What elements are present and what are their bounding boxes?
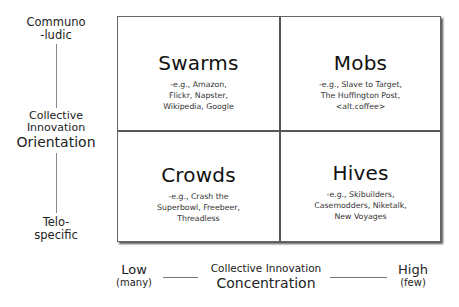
y-axis-line-lower (56, 153, 57, 213)
x-axis-title: Collective Innovation Concentration (196, 262, 336, 292)
quadrant-crowds: Crowds -e.g., Crash the Superbowl, Freeb… (118, 163, 279, 224)
x-axis-low-label: Low (many) (112, 263, 156, 290)
x-axis-line-right (330, 277, 387, 278)
y-axis-line-upper (56, 44, 57, 108)
x-axis-high-sub: (few) (388, 277, 438, 290)
x-axis-low-main: Low (112, 263, 156, 277)
x-axis-low-sub: (many) (112, 277, 156, 290)
quadrant-examples: -e.g., Crash the Superbowl, Freebeer, Th… (118, 192, 279, 224)
quadrant-mobs: Mobs -e.g., Slave to Target, The Huffing… (280, 51, 441, 112)
quadrant-matrix: Swarms -e.g., Amazon, Flickr, Napster, W… (117, 16, 441, 242)
quadrant-examples: -e.g., Skibuilders, Casemodders, Niketal… (280, 190, 441, 222)
quadrant-title: Swarms (118, 51, 279, 75)
horizontal-divider (118, 130, 440, 132)
quadrant-title: Crowds (118, 163, 279, 187)
x-axis-high-label: High (few) (388, 263, 438, 290)
x-axis-line-left (163, 277, 198, 278)
quadrant-swarms: Swarms -e.g., Amazon, Flickr, Napster, W… (118, 51, 279, 112)
quadrant-title: Mobs (280, 51, 441, 75)
y-axis-top-label: Communo -ludic (10, 16, 102, 42)
quadrant-hives: Hives -e.g., Skibuilders, Casemodders, N… (280, 161, 441, 222)
x-axis-title-line1: Collective Innovation (196, 262, 336, 275)
y-axis-title-line2: Innovation (27, 121, 85, 134)
x-axis-high-main: High (388, 263, 438, 277)
y-axis-bottom-label-line2: specific (34, 228, 77, 242)
y-axis-title-line1: Collective (29, 109, 83, 122)
y-axis-title: Collective Innovation Orientation (4, 110, 108, 150)
quadrant-title: Hives (280, 161, 441, 185)
quadrant-examples: -e.g., Slave to Target, The Huffington P… (280, 80, 441, 112)
y-axis-title-line3: Orientation (4, 135, 108, 151)
quadrant-examples: -e.g., Amazon, Flickr, Napster, Wikipedi… (118, 80, 279, 112)
y-axis-top-label-line2: -ludic (40, 28, 71, 42)
x-axis-title-line2: Concentration (196, 275, 336, 293)
y-axis-bottom-label: Telo- specific (10, 216, 102, 242)
